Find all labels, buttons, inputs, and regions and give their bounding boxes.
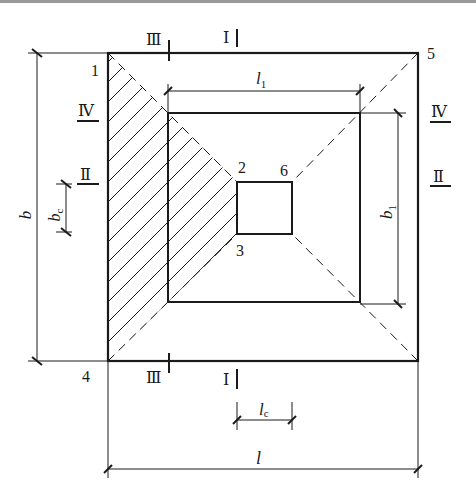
dim-label-b: b: [16, 211, 35, 220]
point-label-4: 4: [82, 368, 90, 385]
point-label-6: 6: [280, 162, 288, 179]
svg-text:b1: b1: [377, 205, 398, 219]
section-label-left-II: Ⅱ: [80, 166, 91, 183]
section-label-top-I: Ⅰ: [223, 29, 229, 46]
svg-text:b: b: [16, 211, 35, 220]
section-label-left-IV: Ⅳ: [78, 102, 95, 119]
dim-label-lc: lc: [259, 400, 269, 419]
section-label-bottom-III: Ⅲ: [146, 369, 161, 386]
point-label-2: 2: [238, 159, 246, 176]
hatched-area: [90, 0, 260, 420]
section-label-top-III: Ⅲ: [146, 31, 161, 48]
dim-label-l1: l1: [256, 69, 266, 90]
column-outline: [237, 182, 292, 234]
dim-label-l: l: [256, 448, 261, 468]
foundation-diagram: 1 2 6 3 4 5 Ⅲ Ⅰ Ⅲ Ⅰ Ⅳ Ⅱ Ⅳ Ⅱ b bc l1 b1 l…: [0, 0, 476, 498]
section-label-right-IV: Ⅳ: [431, 103, 448, 120]
point-label-1: 1: [91, 62, 99, 79]
section-label-bottom-I: Ⅰ: [223, 371, 229, 388]
dim-label-b1: b1: [377, 205, 398, 219]
section-label-right-II: Ⅱ: [433, 168, 444, 185]
point-label-3: 3: [236, 242, 244, 259]
dim-label-bc: bc: [46, 208, 65, 221]
svg-text:bc: bc: [46, 208, 65, 221]
point-label-5: 5: [427, 45, 435, 62]
